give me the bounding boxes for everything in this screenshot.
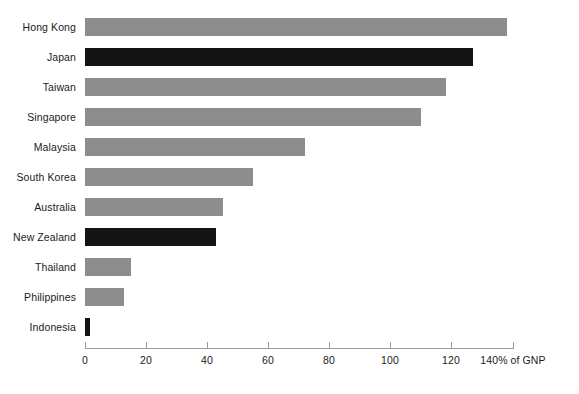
x-axis-tick <box>390 342 391 349</box>
bar-row: Philippines <box>0 288 579 318</box>
x-axis-tick <box>268 342 269 349</box>
bar <box>85 48 473 66</box>
bar-row: Singapore <box>0 108 579 138</box>
category-label: South Korea <box>17 168 76 186</box>
x-axis-unit-label: 140% of GNP <box>480 354 545 366</box>
bar-row: South Korea <box>0 168 579 198</box>
category-label: Thailand <box>35 258 76 276</box>
bank-credit-bar-chart: Hong Kong Japan Taiwan Singapore Malaysi… <box>0 0 579 394</box>
bar <box>85 318 90 336</box>
category-label: Australia <box>34 198 76 216</box>
bar <box>85 108 421 126</box>
x-axis-tick <box>513 342 514 349</box>
category-label: Taiwan <box>43 78 76 96</box>
bar-row: Japan <box>0 48 579 78</box>
x-axis-tick-label: 20 <box>140 354 152 366</box>
bar <box>85 18 507 36</box>
bar-row: Indonesia <box>0 318 579 348</box>
bar <box>85 288 124 306</box>
category-label: New Zealand <box>13 228 76 246</box>
bar <box>85 198 223 216</box>
x-axis-tick-label: 60 <box>262 354 274 366</box>
bar-row: Australia <box>0 198 579 228</box>
bar <box>85 138 305 156</box>
bar <box>85 258 131 276</box>
bar-row: Hong Kong <box>0 18 579 48</box>
bar <box>85 228 216 246</box>
bar <box>85 168 253 186</box>
bar-row: Malaysia <box>0 138 579 168</box>
x-axis-tick-label: 0 <box>82 354 88 366</box>
x-axis-line <box>85 348 513 349</box>
category-label: Philippines <box>24 288 76 306</box>
x-axis-tick-label: 40 <box>201 354 213 366</box>
plot-area: Hong Kong Japan Taiwan Singapore Malaysi… <box>0 0 579 394</box>
x-axis-tick <box>329 342 330 349</box>
bar-row: New Zealand <box>0 228 579 258</box>
x-axis-tick <box>207 342 208 349</box>
x-axis-tick <box>146 342 147 349</box>
bar-row: Taiwan <box>0 78 579 108</box>
x-axis-tick <box>451 342 452 349</box>
category-label: Indonesia <box>30 318 76 336</box>
x-axis-tick-label: 120 <box>442 354 460 366</box>
x-axis-tick <box>85 342 86 349</box>
x-axis-tick-label: 100 <box>381 354 399 366</box>
category-label: Hong Kong <box>23 18 76 36</box>
category-label: Singapore <box>27 108 76 126</box>
category-label: Japan <box>47 48 76 66</box>
category-label: Malaysia <box>34 138 76 156</box>
x-axis-tick-label: 80 <box>323 354 335 366</box>
bar <box>85 78 446 96</box>
bar-row: Thailand <box>0 258 579 288</box>
